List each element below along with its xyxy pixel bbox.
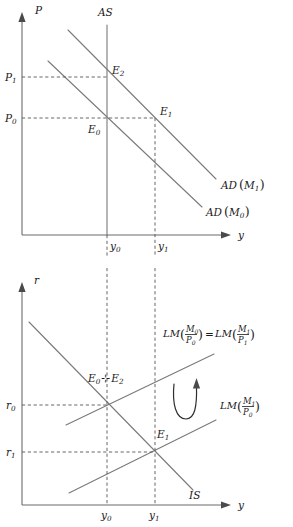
y-axis-arrowhead-bottom: [221, 501, 231, 508]
lm-final-close-paren: ): [250, 327, 255, 342]
r-axis-label: r: [34, 274, 40, 286]
svg-text:M1: M1: [242, 396, 255, 407]
lm-shifted-label: LM ( M1 P0 ): [219, 396, 260, 418]
r1-tick-label: r1: [6, 446, 16, 460]
p1-tick-label: P1: [4, 71, 17, 85]
e0-e2-label: E0⊹E2: [87, 372, 124, 386]
svg-text:r0: r0: [6, 399, 16, 413]
svg-text:P1: P1: [4, 71, 17, 85]
lm-initial-label: LM ( M0 P0 ) = LM ( M1 P1: [162, 324, 255, 346]
lm-initial-label-trail: LM: [214, 328, 233, 339]
ad-m0-label-arg: M: [228, 206, 240, 218]
p0-tick-label: P0: [4, 112, 17, 126]
svg-text:AD(M1): AD(M1): [220, 177, 265, 193]
y1-tick-label-bottom: y1: [148, 509, 160, 523]
svg-text:y1: y1: [157, 240, 169, 254]
r0-tick-label: r0: [6, 399, 16, 413]
lm-shifted-curve: [69, 420, 216, 493]
e0-e2-joiner: ⊹: [101, 372, 110, 384]
lm-shifted-close-paren: ): [255, 399, 260, 414]
ad-m1-label-base: AD: [220, 179, 238, 191]
svg-text:y0: y0: [109, 240, 121, 254]
ad-m0-label-base: AD: [205, 206, 223, 218]
lm-initial-close-paren: ): [198, 327, 203, 342]
svg-text:P0: P0: [185, 335, 196, 346]
p-axis-arrowhead: [18, 12, 25, 22]
y0-tick-label-top: y0: [109, 240, 121, 254]
lm-shifted-open-paren: (: [237, 399, 242, 414]
e2-label-bottom: E: [110, 372, 119, 384]
y0-tick-label-bottom: y0: [100, 509, 112, 523]
ad-m1-label: AD(M1): [220, 177, 265, 193]
lm-final-open-paren: (: [232, 327, 237, 342]
svg-text:E1: E1: [156, 428, 169, 442]
svg-text:y0: y0: [100, 509, 112, 523]
economics-figure: P y AS AD(M1) AD(M0): [0, 0, 293, 527]
as-curve-label: AS: [97, 6, 113, 18]
svg-text:AD(M0): AD(M0): [205, 204, 250, 220]
lm-initial-label-lead: LM: [162, 328, 181, 339]
svg-text:P0: P0: [4, 112, 17, 126]
e0-label-top: E0: [87, 123, 101, 137]
e0-label-bottom: E: [87, 372, 96, 384]
lm-equals-sign: =: [205, 328, 214, 340]
is-lm-diagram: r y IS LM ( M0 P0 ) = LM (: [6, 268, 260, 523]
e1-label-top: E1: [159, 105, 172, 119]
rotation-arrow: [174, 378, 201, 419]
svg-text:E1: E1: [159, 105, 172, 119]
is-curve: [29, 322, 193, 490]
ad-as-diagram: P y AS AD(M1) AD(M0): [4, 4, 265, 257]
e1-label-bottom: E1: [156, 428, 169, 442]
ad-m1-curve: [68, 30, 216, 179]
is-curve-label: IS: [188, 489, 200, 501]
svg-text:r1: r1: [6, 446, 16, 460]
lm-initial-right-fraction: M1 P1: [237, 324, 250, 346]
r-axis-arrowhead: [18, 282, 25, 292]
ad-m1-label-sub: 1: [255, 184, 260, 193]
y1-tick-label-top: y1: [157, 240, 169, 254]
lm-initial-curve: [66, 354, 214, 425]
ad-m0-curve: [48, 61, 202, 207]
svg-text:M0: M0: [185, 324, 199, 335]
figure-canvas: P y AS AD(M1) AD(M0): [0, 0, 293, 527]
lm-shifted-label-lead: LM: [219, 400, 238, 411]
p-axis-label: P: [34, 4, 43, 16]
svg-text:M1: M1: [237, 324, 250, 335]
svg-text:E0⊹E2: E0⊹E2: [87, 372, 124, 386]
svg-text:y1: y1: [148, 509, 160, 523]
lm-initial-open-paren: (: [180, 327, 185, 342]
y-axis-label-top: y: [237, 229, 245, 241]
lm-initial-left-fraction: M0 P0: [185, 324, 199, 346]
y-axis-label-bottom: y: [237, 499, 245, 511]
svg-text:P0: P0: [242, 407, 253, 418]
y-axis-arrowhead-top: [221, 231, 231, 238]
svg-text:P1: P1: [237, 335, 247, 346]
lm-shifted-fraction: M1 P0: [242, 396, 255, 418]
ad-m0-label: AD(M0): [205, 204, 250, 220]
svg-text:E0: E0: [87, 123, 101, 137]
ad-m1-label-arg: M: [243, 179, 255, 191]
